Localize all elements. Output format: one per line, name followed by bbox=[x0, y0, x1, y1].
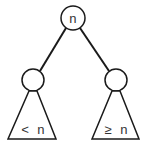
right-child-node bbox=[105, 69, 127, 91]
right-subtree-label: ≥ n bbox=[104, 123, 127, 138]
left-subtree-label: < n bbox=[21, 123, 44, 138]
root-label: n bbox=[69, 12, 77, 27]
root-node: n bbox=[61, 6, 85, 30]
edge-root-right bbox=[80, 28, 109, 71]
left-subtree: < n bbox=[8, 91, 56, 139]
bst-diagram: n < n ≥ n bbox=[0, 0, 146, 149]
right-subtree: ≥ n bbox=[92, 91, 139, 139]
edge-root-left bbox=[40, 28, 66, 71]
left-child-node bbox=[22, 69, 44, 91]
